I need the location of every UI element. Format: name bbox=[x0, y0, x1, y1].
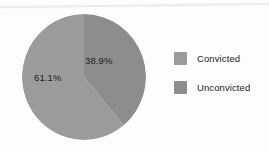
legend-label-unconvicted: Unconvicted bbox=[197, 82, 250, 93]
pie-chart-area: 38.9% 61.1% bbox=[22, 14, 146, 140]
pie-chart-figure: 38.9% 61.1% Convicted Unconvicted bbox=[0, 0, 269, 153]
pie-slice-label-convicted: 38.9% bbox=[85, 55, 112, 66]
chart-legend: Convicted Unconvicted bbox=[174, 51, 266, 109]
pie-slice-label-unconvicted: 61.1% bbox=[34, 72, 61, 83]
scan-artifact-line bbox=[0, 2, 269, 11]
legend-swatch-unconvicted bbox=[174, 81, 187, 94]
legend-item-unconvicted: Unconvicted bbox=[174, 80, 266, 94]
legend-label-convicted: Convicted bbox=[197, 53, 240, 64]
legend-swatch-convicted bbox=[174, 52, 187, 65]
legend-item-convicted: Convicted bbox=[174, 51, 266, 65]
